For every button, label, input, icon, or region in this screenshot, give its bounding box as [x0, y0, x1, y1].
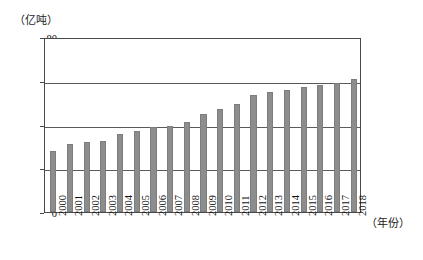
- bar: [351, 79, 357, 212]
- bar: [100, 141, 106, 212]
- x-tick-label: 2005: [140, 195, 151, 216]
- bar: [150, 127, 156, 212]
- x-tick-label: 2010: [223, 195, 234, 216]
- bar: [200, 114, 206, 212]
- bars-layer: [45, 39, 360, 212]
- x-tick-label: 2006: [157, 195, 168, 216]
- bar: [184, 122, 190, 212]
- bar: [284, 90, 290, 213]
- bar: [134, 131, 140, 212]
- bar: [334, 83, 340, 213]
- x-tick-label: 2014: [290, 195, 301, 216]
- bar: [267, 92, 273, 212]
- bar: [301, 87, 307, 212]
- x-tick-label: 2011: [240, 195, 251, 216]
- x-tick-label: 2003: [107, 195, 118, 216]
- x-tick-label: 2004: [123, 195, 134, 216]
- x-tick-label: 2007: [173, 195, 184, 216]
- x-tick-label: 2018: [357, 195, 368, 216]
- y-tick-mark: [40, 213, 44, 214]
- x-tick-label: 2009: [207, 195, 218, 216]
- x-axis-unit-label: （年份）: [366, 214, 410, 230]
- plot-area: [44, 38, 361, 213]
- x-tick-label: 2001: [73, 195, 84, 216]
- x-tick-label: 2016: [323, 195, 334, 216]
- x-tick-label: 2002: [90, 195, 101, 216]
- x-tick-label: 2017: [340, 195, 351, 216]
- bar: [250, 95, 256, 212]
- bar: [50, 151, 56, 212]
- y-axis-unit-label: （亿吨）: [14, 11, 58, 27]
- x-tick-label: 2012: [257, 195, 268, 216]
- bar-chart-figure: （亿吨） 020406080 2000200120022003200420052…: [0, 0, 423, 260]
- bar: [317, 85, 323, 212]
- x-tick-label: 2013: [273, 195, 284, 216]
- x-tick-label: 2015: [307, 195, 318, 216]
- x-tick-label: 2008: [190, 195, 201, 216]
- x-tick-label: 2000: [57, 195, 68, 216]
- bar: [84, 142, 90, 212]
